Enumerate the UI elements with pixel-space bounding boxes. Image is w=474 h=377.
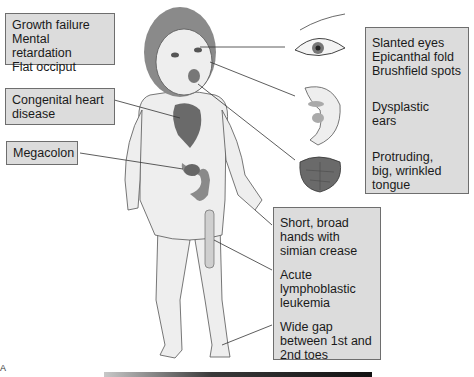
label-acute: Acute — [280, 268, 374, 282]
label-lymphoblastic: lymphoblastic — [280, 282, 374, 296]
left-leg — [156, 225, 190, 358]
label-box-heart: Congenital heart disease — [5, 88, 115, 125]
face — [156, 29, 212, 95]
child-mouth — [188, 69, 200, 83]
label-disease: disease — [12, 107, 108, 121]
label-congenital-heart: Congenital heart — [12, 93, 108, 107]
femur-bone — [205, 210, 214, 268]
label-box-head-features: Slanted eyes Epicanthal fold Brushfield … — [365, 27, 469, 194]
label-slanted-eyes: Slanted eyes — [372, 36, 462, 50]
label-simian-crease: simian crease — [280, 244, 374, 258]
label-growth-failure: Growth failure — [12, 18, 108, 32]
label-dysplastic: Dysplastic — [372, 100, 462, 114]
panel-letter: A — [0, 363, 6, 373]
label-ears: ears — [372, 114, 462, 128]
label-big-wrinkled: big, wrinkled — [372, 164, 462, 178]
label-box-growth: Growth failure Mental retardation Flat o… — [5, 13, 115, 65]
tongue-closeup — [300, 157, 341, 192]
colon-bulge — [184, 164, 200, 176]
ear-closeup — [305, 87, 340, 145]
label-hands-with: hands with — [280, 230, 374, 244]
label-box-megacolon: Megacolon — [6, 141, 78, 165]
label-2nd-toes: 2nd toes — [280, 348, 374, 362]
child-left-eye — [171, 53, 179, 58]
label-megacolon: Megacolon — [13, 146, 71, 160]
eye-closeup — [295, 14, 345, 56]
right-arm — [222, 110, 262, 210]
label-flat-occiput: Flat occiput — [12, 60, 108, 74]
bottom-rule — [104, 372, 372, 377]
label-mental-retardation: Mental retardation — [12, 32, 108, 60]
label-brushfield-spots: Brushfield spots — [372, 64, 462, 78]
label-short-broad: Short, broad — [280, 216, 374, 230]
label-box-body-features: Short, broad hands with simian crease Ac… — [273, 207, 381, 360]
label-epicanthal-fold: Epicanthal fold — [372, 50, 462, 64]
label-between-toes: between 1st and — [280, 334, 374, 348]
label-leukemia: leukemia — [280, 296, 374, 310]
label-tongue: tongue — [372, 178, 462, 192]
label-wide-gap: Wide gap — [280, 320, 374, 334]
child-right-eye — [194, 48, 202, 53]
label-protruding: Protruding, — [372, 150, 462, 164]
